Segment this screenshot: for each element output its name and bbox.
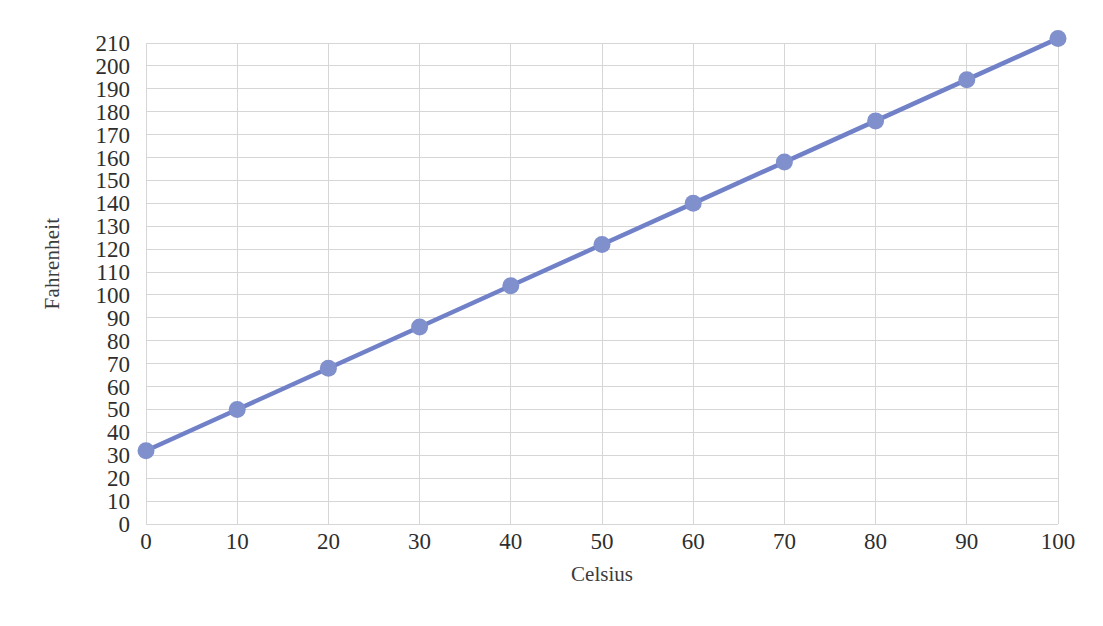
y-axis-tick-label: 80	[107, 329, 130, 352]
x-axis-title: Celsius	[146, 562, 1058, 587]
y-axis-tick-label: 170	[96, 123, 131, 146]
x-axis-tick-label: 20	[317, 530, 340, 553]
y-axis-tick-label: 200	[96, 54, 131, 77]
line-chart-svg	[146, 43, 1058, 524]
data-point-marker	[685, 195, 702, 212]
x-axis-tick-label: 30	[408, 530, 431, 553]
data-point-marker	[320, 360, 337, 377]
y-axis-tick-label: 70	[107, 352, 130, 375]
data-point-marker	[411, 319, 428, 336]
y-axis-tick-label: 90	[107, 306, 130, 329]
data-point-marker	[867, 112, 884, 129]
chart-container: Fahrenheit 01020304050607080901001101201…	[0, 0, 1103, 626]
y-axis-tick-label: 100	[96, 283, 131, 306]
x-axis-tick-label: 100	[1041, 530, 1076, 553]
y-axis-title: Fahrenheit	[38, 0, 68, 526]
x-axis-tick-labels: 0102030405060708090100	[146, 530, 1058, 564]
x-axis-tick-label: 40	[499, 530, 522, 553]
y-axis-tick-label: 50	[107, 398, 130, 421]
y-axis-tick-label: 150	[96, 169, 131, 192]
x-axis-tick-label: 60	[682, 530, 705, 553]
plot-area	[146, 43, 1058, 524]
data-point-marker	[229, 401, 246, 418]
data-point-marker	[594, 236, 611, 253]
data-point-marker	[502, 277, 519, 294]
x-axis-tick-label: 80	[864, 530, 887, 553]
y-axis-tick-label: 140	[96, 192, 131, 215]
y-axis-tick-label: 10	[107, 490, 130, 513]
y-axis-tick-labels: 0102030405060708090100110120130140150160…	[66, 43, 138, 524]
data-point-marker	[958, 71, 975, 88]
x-axis-tick-label: 90	[955, 530, 978, 553]
x-axis-tick-label: 10	[226, 530, 249, 553]
grid-lines	[146, 43, 1058, 524]
data-point-marker	[776, 154, 793, 171]
y-axis-tick-label: 130	[96, 215, 131, 238]
x-axis-tick-label: 70	[773, 530, 796, 553]
y-axis-tick-label: 120	[96, 238, 131, 261]
y-axis-tick-label: 30	[107, 444, 130, 467]
y-axis-tick-label: 210	[96, 32, 131, 55]
y-axis-tick-label: 60	[107, 375, 130, 398]
y-axis-tick-label: 0	[119, 513, 131, 536]
x-axis-tick-label: 0	[140, 530, 152, 553]
y-axis-tick-label: 40	[107, 421, 130, 444]
y-axis-title-label: Fahrenheit	[41, 217, 66, 309]
data-point-marker	[138, 442, 155, 459]
y-axis-tick-label: 160	[96, 146, 131, 169]
y-axis-tick-label: 190	[96, 77, 131, 100]
y-axis-tick-label: 180	[96, 100, 131, 123]
data-point-marker	[1050, 30, 1067, 47]
y-axis-tick-label: 110	[96, 261, 130, 284]
x-axis-tick-label: 50	[591, 530, 614, 553]
y-axis-tick-label: 20	[107, 467, 130, 490]
